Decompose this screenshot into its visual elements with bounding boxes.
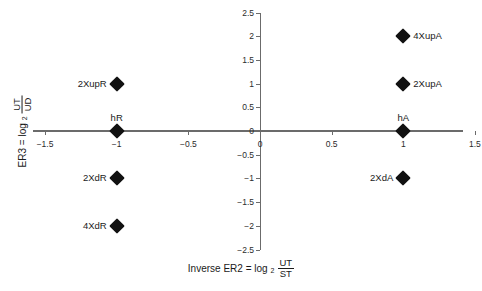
data-point-label: hA — [397, 113, 409, 123]
y-axis-tick-label: −0.5 — [237, 150, 254, 159]
x-axis-title-denominator: ST — [278, 268, 294, 279]
y-axis-tick — [256, 155, 260, 156]
y-axis-tick-label: −1 — [244, 174, 254, 183]
data-point-label: 2XdR — [83, 174, 107, 184]
x-axis-title-subscript: 2 — [271, 267, 275, 274]
data-point-marker[interactable] — [109, 76, 125, 92]
x-axis-tick — [332, 131, 333, 135]
data-point-label: 4XupA — [413, 31, 442, 41]
x-axis-tick-label: 0.5 — [326, 140, 338, 149]
data-point-label: 4XdR — [83, 221, 107, 231]
x-axis-title-prefix: Inverse ER2 = log — [188, 263, 268, 274]
y-axis-title-prefix: ER3 = log — [17, 123, 28, 167]
data-point-marker[interactable] — [109, 123, 125, 139]
x-axis-tick-label: 1 — [401, 140, 406, 149]
x-axis-tick-label: −1 — [112, 140, 122, 149]
y-axis-title-numerator: UT — [12, 96, 22, 113]
y-axis-tick — [256, 202, 260, 203]
x-axis-tick-label: −0.5 — [180, 140, 197, 149]
x-axis-tick-label: 0 — [258, 140, 263, 149]
y-axis-tick — [256, 107, 260, 108]
data-point-label: hR — [111, 113, 123, 123]
y-axis-tick — [256, 84, 260, 85]
data-point-marker[interactable] — [109, 218, 125, 234]
data-point-marker[interactable] — [109, 171, 125, 187]
y-axis-tick — [256, 131, 260, 132]
y-axis-tick-label: 0 — [249, 127, 254, 136]
x-axis-tick-label: −1.5 — [37, 140, 54, 149]
x-axis-title-fraction: UT ST — [278, 258, 295, 279]
x-axis-tick — [188, 131, 189, 135]
scatter-plot-figure: −1.5−1−0.500.511.52.521.510.50−0.5−1−1.5… — [0, 0, 482, 291]
y-axis-tick — [256, 60, 260, 61]
y-axis-title: ER3 = log2 UT UD — [12, 21, 33, 241]
x-axis-title-numerator: UT — [278, 258, 295, 268]
y-axis-tick-label: −2.5 — [237, 245, 254, 254]
y-axis-title-denominator: UD — [22, 96, 33, 114]
y-axis-tick-label: 2.5 — [242, 8, 254, 17]
y-axis-tick — [256, 226, 260, 227]
x-axis-tick — [45, 131, 46, 135]
data-point-marker[interactable] — [396, 28, 412, 44]
data-point-marker[interactable] — [396, 171, 412, 187]
y-axis-tick-label: 0.5 — [242, 103, 254, 112]
y-axis-tick-label: 2 — [249, 32, 254, 41]
x-axis-title: Inverse ER2 = log2 UT ST — [0, 258, 482, 279]
y-axis-title-fraction: UT UD — [12, 96, 33, 114]
y-axis-tick-label: 1.5 — [242, 56, 254, 65]
y-axis-title-subscript: 2 — [21, 116, 28, 120]
y-axis-tick — [256, 13, 260, 14]
y-axis-tick — [256, 178, 260, 179]
x-axis-tick-label: 1.5 — [469, 140, 481, 149]
x-axis-tick — [475, 131, 476, 135]
data-point-marker[interactable] — [396, 76, 412, 92]
y-axis-tick-label: 1 — [249, 79, 254, 88]
y-axis-tick — [256, 36, 260, 37]
data-point-label: 2XupA — [413, 79, 442, 89]
data-point-label: 2XdA — [370, 174, 393, 184]
y-axis-tick-label: −2 — [244, 222, 254, 231]
y-axis-tick — [256, 250, 260, 251]
data-point-label: 2XupR — [78, 79, 107, 89]
data-point-marker[interactable] — [396, 123, 412, 139]
y-axis-tick-label: −1.5 — [237, 198, 254, 207]
